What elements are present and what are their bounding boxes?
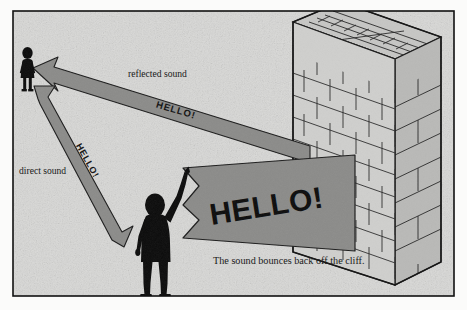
panel: HELLO! HELLO! HELLO! bbox=[13, 2, 454, 299]
echo-diagram-figure: HELLO! HELLO! HELLO! bbox=[0, 0, 467, 310]
panel-overlay-texture bbox=[13, 11, 454, 296]
diagram-canvas: HELLO! HELLO! HELLO! bbox=[0, 0, 467, 310]
